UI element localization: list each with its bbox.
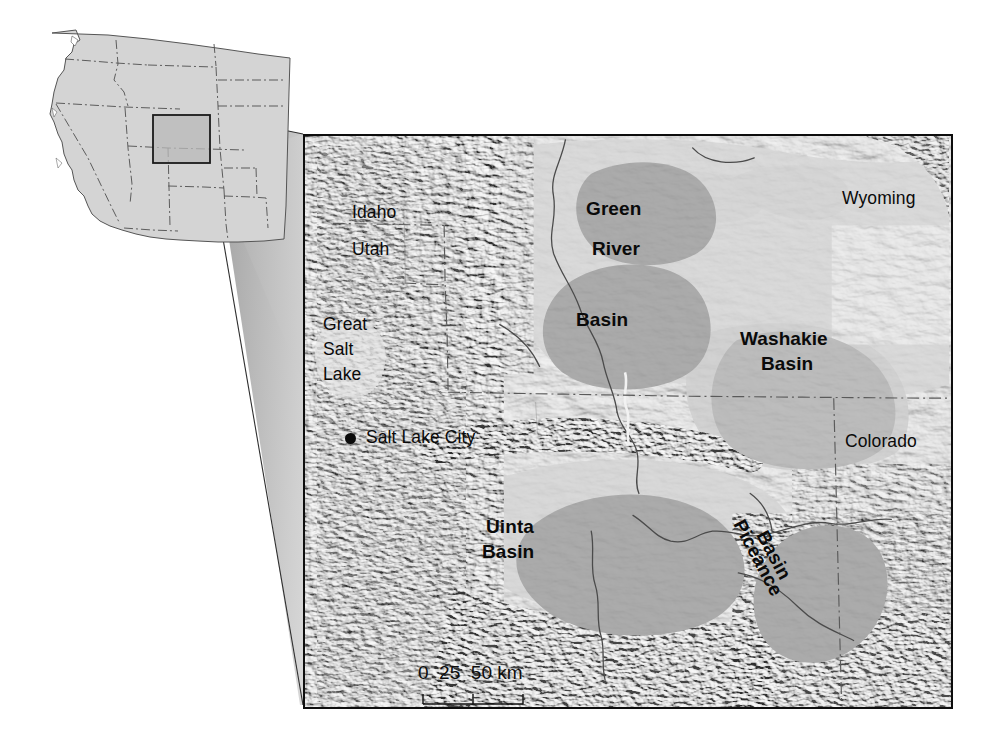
label-salt-lake-city: Salt Lake City bbox=[366, 428, 475, 448]
label-great-salt-lake-line1: Great bbox=[323, 315, 367, 335]
label-great-salt-lake-line3: Lake bbox=[323, 365, 361, 385]
main-map-frame bbox=[303, 134, 953, 709]
label-washakie-basin-line1: Washakie bbox=[740, 328, 828, 349]
scale-bar-graphic bbox=[418, 690, 538, 708]
scale-bar-labels: 0 25 50 km bbox=[418, 662, 523, 684]
label-utah: Utah bbox=[352, 240, 389, 260]
label-uinta-basin-line2: Basin bbox=[482, 541, 534, 562]
label-uinta-basin-line1: Uinta bbox=[486, 516, 534, 537]
label-washakie-basin-line2: Basin bbox=[761, 353, 813, 374]
western-united-states-inset bbox=[28, 18, 328, 318]
label-green-river-basin-line1: Green bbox=[586, 198, 641, 219]
label-green-river-basin-line3: Basin bbox=[576, 309, 628, 330]
label-colorado: Colorado bbox=[845, 432, 917, 452]
label-wyoming: Wyoming bbox=[842, 189, 915, 209]
study-area-rectangle bbox=[153, 115, 210, 163]
label-green-river-basin-line2: River bbox=[592, 238, 640, 259]
figure-root: Idaho Utah Wyoming Colorado Great Salt L… bbox=[0, 0, 988, 751]
label-idaho: Idaho bbox=[352, 203, 396, 223]
shaded-relief-terrain bbox=[305, 136, 951, 707]
salt-lake-city-dot bbox=[345, 433, 356, 444]
label-great-salt-lake-line2: Salt bbox=[323, 340, 354, 360]
